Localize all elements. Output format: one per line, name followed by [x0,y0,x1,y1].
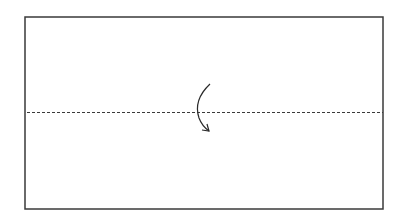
fold-diagram [0,0,397,215]
